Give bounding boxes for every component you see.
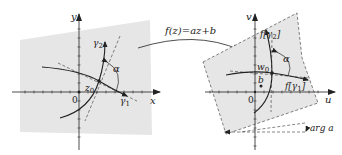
v-axis-label: v — [246, 11, 252, 22]
b-label: b — [258, 75, 264, 85]
conformal-map-diagram: y x 0 z0 γ2 γ1 α f(z)=az+b — [0, 0, 342, 155]
arg-a-label: arg a — [310, 123, 334, 133]
w-plane: v u 0 w0 b f[γ2] f[γ1] α arg a — [203, 11, 335, 150]
y-axis-label: y — [70, 11, 77, 22]
mapping-label: f(z)=az+b — [164, 25, 216, 36]
mapping: f(z)=az+b — [138, 25, 240, 50]
alpha-label-left: α — [113, 63, 120, 74]
origin-label-left: 0 — [72, 95, 78, 105]
x-axis-label: x — [150, 95, 156, 106]
alpha-label-right: α — [283, 53, 290, 64]
arg-a-arc — [306, 126, 307, 131]
origin-dot-left — [78, 91, 81, 94]
u-axis-label: u — [325, 94, 331, 105]
point-z0 — [97, 79, 101, 83]
z-region — [20, 20, 152, 135]
origin-label-right: 0 — [248, 95, 254, 105]
mapping-arrow — [138, 39, 240, 50]
origin-dot-right — [254, 91, 256, 93]
z-plane: y x 0 z0 γ2 γ1 α — [12, 11, 160, 150]
point-w0 — [270, 71, 274, 75]
